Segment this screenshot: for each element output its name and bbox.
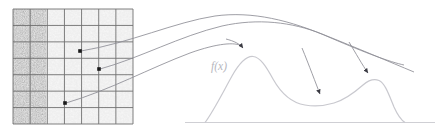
sample-point-2[interactable] <box>97 67 101 71</box>
mapping-arrows <box>226 39 368 94</box>
sample-point-3[interactable] <box>63 101 67 105</box>
sampling-grid[interactable] <box>13 9 133 124</box>
figure-svg: f(x) <box>0 0 439 133</box>
mapping-arrow-3 <box>349 42 368 73</box>
function-curve <box>205 56 405 122</box>
mapping-arrow-2 <box>302 48 320 94</box>
sample-point-1[interactable] <box>78 49 82 53</box>
mapping-arc-2 <box>100 22 414 72</box>
figure-canvas: f(x) <box>0 0 439 133</box>
function-label: f(x) <box>211 60 227 73</box>
